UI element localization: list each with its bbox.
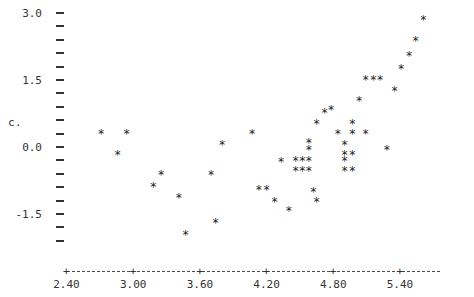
y-tick-mark [56, 240, 64, 242]
data-point-marker: * [263, 184, 270, 196]
data-point-marker: * [313, 196, 320, 208]
data-point-marker: * [405, 50, 412, 62]
data-point-marker: * [182, 229, 189, 241]
data-point-marker: * [349, 165, 356, 177]
y-tick-mark [56, 133, 64, 135]
y-tick-mark [56, 186, 64, 188]
data-point-marker: * [412, 35, 419, 47]
x-tick-label: 3.00 [108, 279, 158, 290]
data-point-marker: * [420, 14, 427, 26]
x-axis-tick: + [263, 266, 270, 277]
y-axis-caption: c. [8, 117, 22, 128]
data-point-marker: * [255, 184, 262, 196]
data-point-marker: * [355, 95, 362, 107]
x-tick-label: 2.40 [42, 279, 92, 290]
data-point-marker: * [305, 165, 312, 177]
y-tick-mark [56, 25, 64, 27]
data-point-marker: * [349, 149, 356, 161]
x-tick-label: 4.80 [308, 279, 358, 290]
x-axis-tick: + [330, 266, 337, 277]
x-axis-tick: + [196, 266, 203, 277]
x-axis-line [67, 271, 441, 272]
y-tick-label: -1.5 [16, 209, 43, 220]
y-tick-mark [56, 66, 64, 68]
x-axis-tick: + [130, 266, 137, 277]
data-point-marker: * [123, 128, 130, 140]
y-tick-mark [56, 213, 64, 215]
y-tick-mark [56, 146, 64, 148]
data-point-marker: * [249, 128, 256, 140]
data-point-marker: * [175, 192, 182, 204]
data-point-marker: * [212, 217, 219, 229]
y-tick-mark [56, 79, 64, 81]
y-tick-mark [56, 173, 64, 175]
data-point-marker: * [98, 128, 105, 140]
data-point-marker: * [285, 205, 292, 217]
y-tick-mark [56, 106, 64, 108]
x-tick-label: 3.60 [175, 279, 225, 290]
data-point-marker: * [150, 181, 157, 193]
data-point-marker: * [362, 74, 369, 86]
data-point-marker: * [362, 128, 369, 140]
data-point-marker: * [377, 74, 384, 86]
data-point-marker: * [158, 169, 165, 181]
y-tick-mark [56, 159, 64, 161]
data-point-marker: * [208, 169, 215, 181]
y-tick-mark [56, 200, 64, 202]
y-tick-label: 3.0 [22, 8, 42, 19]
data-point-marker: * [219, 139, 226, 151]
x-tick-label: 4.20 [242, 279, 292, 290]
y-tick-label: 1.5 [22, 75, 42, 86]
data-point-marker: * [271, 196, 278, 208]
scatter-plot-figure: c. 3.01.50.0-1.5 +2.40+3.00+3.60+4.20+4.… [0, 0, 474, 297]
y-tick-mark [56, 52, 64, 54]
x-axis-tick: + [63, 266, 70, 277]
data-point-marker: * [313, 118, 320, 130]
data-point-marker: * [114, 149, 121, 161]
data-point-marker: * [278, 156, 285, 168]
x-axis-tick: + [397, 266, 404, 277]
y-tick-mark [56, 92, 64, 94]
y-tick-mark [56, 226, 64, 228]
y-tick-mark [56, 39, 64, 41]
data-point-marker: * [383, 144, 390, 156]
data-point-marker: * [391, 85, 398, 97]
y-tick-mark [56, 12, 64, 14]
y-tick-mark [56, 119, 64, 121]
x-tick-label: 5.40 [375, 279, 425, 290]
data-point-marker: * [398, 63, 405, 75]
y-tick-label: 0.0 [22, 142, 42, 153]
data-point-marker: * [328, 104, 335, 116]
data-point-marker: * [341, 165, 348, 177]
data-point-marker: * [349, 128, 356, 140]
